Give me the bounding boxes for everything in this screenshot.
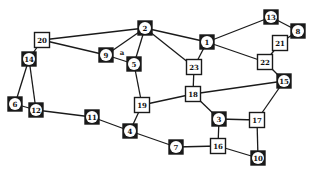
node-14: 14 — [22, 52, 36, 66]
node-label: 9 — [104, 51, 109, 60]
node-label: 7 — [174, 143, 179, 152]
node-16: 16 — [211, 139, 226, 154]
edge-1-22 — [207, 42, 265, 62]
node-18: 18 — [186, 87, 201, 102]
graph-diagram: a 1234567891011121314151617181920212223 — [0, 0, 316, 172]
node-7: 7 — [169, 140, 183, 154]
node-label: 21 — [275, 39, 285, 48]
node-9: 9 — [99, 48, 113, 62]
node-label: 3 — [217, 115, 222, 124]
node-12: 12 — [29, 103, 43, 117]
node-15: 15 — [277, 74, 291, 88]
node-3: 3 — [212, 112, 226, 126]
annotation-layer: a — [120, 48, 125, 57]
node-19: 19 — [135, 98, 150, 113]
node-10: 10 — [251, 151, 265, 165]
node-label: 6 — [13, 100, 18, 109]
node-23: 23 — [187, 60, 202, 75]
node-label: 17 — [252, 116, 262, 125]
node-5: 5 — [127, 57, 141, 71]
node-17: 17 — [250, 113, 265, 128]
edge-1-13 — [207, 17, 271, 42]
node-22: 22 — [258, 55, 273, 70]
edge-12-11 — [36, 110, 92, 117]
node-13: 13 — [264, 10, 278, 24]
node-label: 14 — [24, 55, 34, 64]
node-label: 15 — [279, 77, 289, 86]
node-label: 13 — [266, 13, 276, 22]
node-label: 8 — [296, 27, 301, 36]
node-label: 1 — [205, 38, 210, 47]
node-label: 22 — [260, 58, 270, 67]
annotation-label: a — [120, 48, 125, 57]
node-11: 11 — [85, 110, 99, 124]
node-label: 5 — [132, 60, 137, 69]
node-label: 16 — [213, 142, 223, 151]
node-label: 12 — [31, 106, 41, 115]
node-layer: 1234567891011121314151617181920212223 — [8, 10, 305, 165]
edge-18-15 — [193, 81, 284, 94]
edge-layer — [15, 17, 298, 158]
node-label: 4 — [128, 127, 133, 136]
node-label: 20 — [37, 36, 47, 45]
node-8: 8 — [291, 24, 305, 38]
node-4: 4 — [123, 124, 137, 138]
node-label: 10 — [253, 154, 263, 163]
edge-20-9 — [42, 40, 106, 55]
node-label: 19 — [137, 101, 147, 110]
node-6: 6 — [8, 97, 22, 111]
node-label: 2 — [143, 24, 148, 33]
node-2: 2 — [138, 21, 152, 35]
node-1: 1 — [200, 35, 214, 49]
node-label: 11 — [87, 113, 97, 122]
node-label: 23 — [189, 63, 199, 72]
node-label: 18 — [188, 90, 198, 99]
node-21: 21 — [273, 36, 288, 51]
node-20: 20 — [35, 33, 50, 48]
